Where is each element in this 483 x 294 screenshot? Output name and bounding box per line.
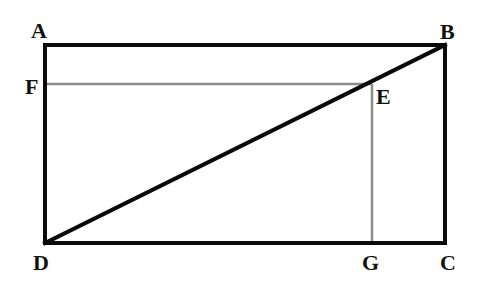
label-C: C (440, 250, 456, 275)
label-D: D (33, 250, 49, 275)
label-G: G (362, 250, 379, 275)
label-F: F (25, 74, 38, 99)
label-E: E (376, 84, 391, 109)
geometry-diagram: A B F E D G C (0, 0, 483, 294)
label-A: A (31, 18, 47, 43)
label-B: B (440, 19, 455, 44)
diagonal-DB (45, 45, 445, 243)
